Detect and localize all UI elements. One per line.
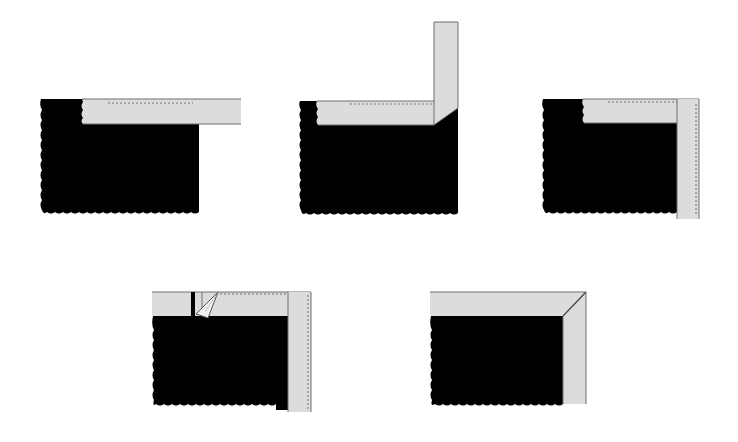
- tape-horizontal: [316, 101, 434, 125]
- step-4: [152, 292, 311, 412]
- tape-horizontal: [582, 99, 677, 123]
- step-5: [430, 292, 586, 406]
- step-1: [40, 99, 241, 214]
- step-3: [542, 99, 699, 219]
- tape-horizontal: [152, 292, 288, 316]
- tape-horizontal-mitered: [430, 292, 586, 316]
- step-2: [299, 22, 458, 215]
- dark-panel: [152, 316, 288, 410]
- dark-panel: [430, 316, 563, 406]
- tuck-edge: [191, 292, 195, 316]
- tape-vertical-folded-up: [434, 22, 458, 125]
- tape-corner-diagram: [0, 0, 738, 442]
